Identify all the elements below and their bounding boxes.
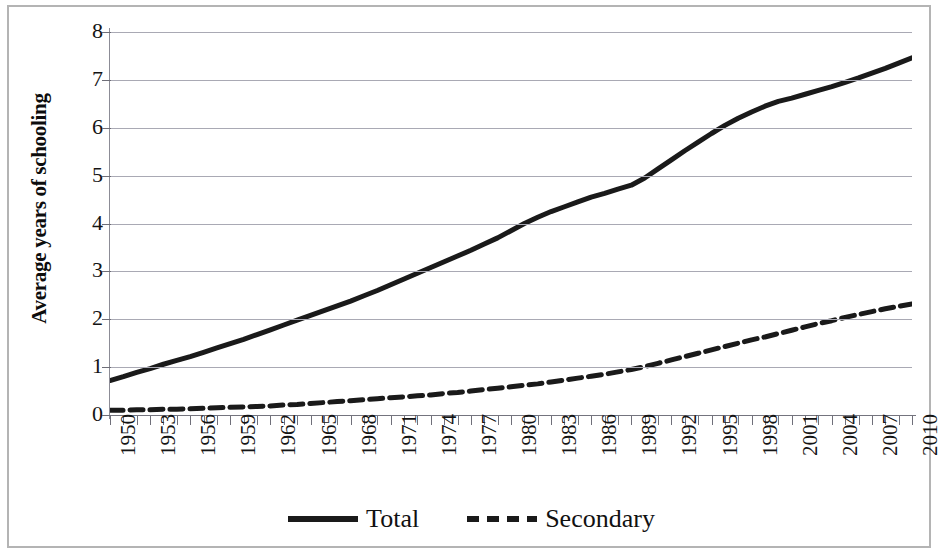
x-axis-tick-label: 1989 — [639, 414, 660, 504]
y-axis-tick-label: 8 — [63, 20, 103, 42]
x-axis-tick — [872, 416, 873, 425]
x-axis-tick-label: 1959 — [238, 414, 259, 504]
y-axis-tick — [102, 176, 111, 177]
x-axis-tick — [551, 416, 552, 425]
legend-label-secondary: Secondary — [545, 506, 655, 532]
y-axis-tick-label: 2 — [63, 307, 103, 329]
x-axis-tick — [511, 416, 512, 425]
y-axis-tick-label: 6 — [63, 116, 103, 138]
x-axis-tick — [471, 416, 472, 425]
gridline — [110, 224, 912, 225]
y-axis-tick — [102, 32, 111, 33]
x-axis-tick — [351, 416, 352, 425]
x-axis-tick-label: 1980 — [519, 414, 540, 504]
x-axis-tick-label: 1974 — [439, 414, 460, 504]
x-axis-tick — [270, 416, 271, 425]
y-axis-tick — [102, 367, 111, 368]
x-axis-tick-label: 1968 — [359, 414, 380, 504]
x-axis-tick — [712, 416, 713, 425]
y-axis-tick-label: 7 — [63, 68, 103, 90]
gridline — [110, 367, 912, 368]
y-axis-tick-label: 3 — [63, 259, 103, 281]
x-axis-tick-label: 2010 — [920, 414, 941, 504]
legend-swatch-dashed — [465, 507, 539, 531]
gridline — [110, 176, 912, 177]
x-axis-tick-label: 1953 — [158, 414, 179, 504]
plot-area — [110, 32, 912, 415]
y-axis-tick-labels: 012345678 — [55, 0, 103, 440]
x-axis-tick-label: 1965 — [319, 414, 340, 504]
x-axis-tick — [752, 416, 753, 425]
x-axis-line — [104, 415, 916, 416]
legend-label-total: Total — [366, 506, 419, 532]
x-axis-tick-label: 1983 — [559, 414, 580, 504]
x-axis-tick-label: 1992 — [679, 414, 700, 504]
x-axis-tick — [230, 416, 231, 425]
x-axis-tick — [591, 416, 592, 425]
y-axis-title: Average years of schooling — [27, 69, 52, 349]
y-axis-tick-label: 4 — [63, 212, 103, 234]
x-axis-tick — [391, 416, 392, 425]
y-axis-tick-label: 5 — [63, 164, 103, 186]
y-axis-tick — [102, 128, 111, 129]
x-axis-tick — [311, 416, 312, 425]
x-axis-tick-label: 2007 — [880, 414, 901, 504]
x-axis-tick-label: 1971 — [399, 414, 420, 504]
gridline — [110, 32, 912, 33]
legend-swatch-solid — [286, 507, 360, 531]
x-axis-tick — [671, 416, 672, 425]
x-axis-tick-label: 1998 — [760, 414, 781, 504]
y-axis-tick — [102, 224, 111, 225]
gridline — [110, 319, 912, 320]
legend-item-total: Total — [286, 506, 419, 532]
x-axis-tick-label: 2004 — [840, 414, 861, 504]
x-axis-tick-label: 1956 — [198, 414, 219, 504]
gridline — [110, 128, 912, 129]
x-axis-tick-label: 1995 — [720, 414, 741, 504]
x-axis-tick — [431, 416, 432, 425]
x-axis-tick — [150, 416, 151, 425]
x-axis-tick-label: 2001 — [800, 414, 821, 504]
x-axis-tick-label: 1950 — [118, 414, 139, 504]
y-axis-tick — [102, 319, 111, 320]
x-axis-tick — [792, 416, 793, 425]
y-axis-tick-label: 1 — [63, 355, 103, 377]
legend-item-secondary: Secondary — [465, 506, 655, 532]
y-axis-tick — [102, 271, 111, 272]
gridline — [110, 271, 912, 272]
x-axis-tick — [631, 416, 632, 425]
chart-figure: Average years of schooling 012345678 195… — [0, 0, 941, 552]
chart-legend: Total Secondary — [0, 506, 941, 532]
gridline — [110, 80, 912, 81]
x-axis-tick-label: 1962 — [278, 414, 299, 504]
x-axis-tick-label: 1977 — [479, 414, 500, 504]
x-axis-tick-label: 1986 — [599, 414, 620, 504]
x-axis-tick — [190, 416, 191, 425]
x-axis-tick — [912, 416, 913, 425]
y-axis-tick-label: 0 — [63, 403, 103, 425]
y-axis-tick — [102, 80, 111, 81]
x-axis-tick — [110, 416, 111, 425]
x-axis-tick — [832, 416, 833, 425]
